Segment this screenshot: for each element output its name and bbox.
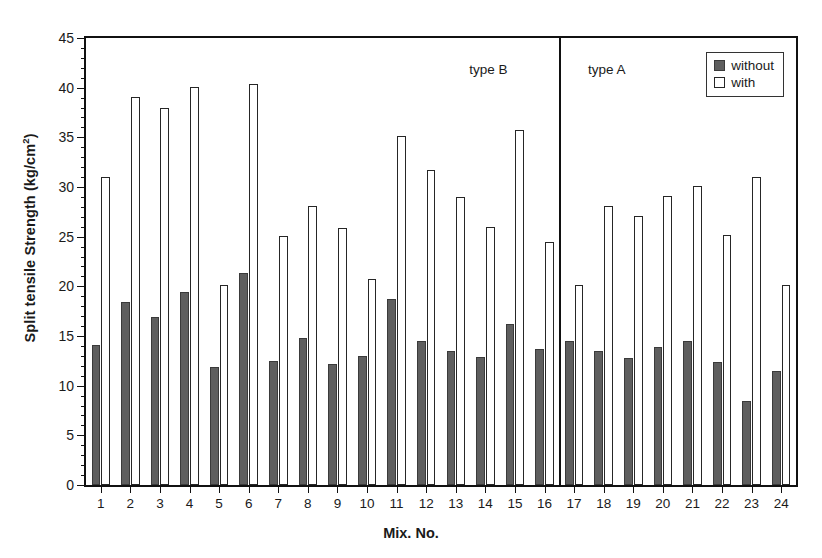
y-axis-minor-tick xyxy=(81,227,86,228)
y-axis-minor-tick xyxy=(81,78,86,79)
x-axis-tick-label: 11 xyxy=(390,497,404,511)
y-axis-major-tick xyxy=(77,237,86,238)
y-axis-minor-tick xyxy=(81,257,86,258)
bar-with-mix-14 xyxy=(486,227,495,485)
y-axis-title: Split tensile Strength (kg/cm2) xyxy=(20,88,38,388)
x-axis-tick xyxy=(781,485,782,493)
legend-item-with: with xyxy=(714,74,774,91)
y-axis-major-tick xyxy=(77,38,86,39)
y-axis-minor-tick xyxy=(81,425,86,426)
bar-without-mix-12 xyxy=(417,341,426,485)
y-axis-minor-tick xyxy=(81,108,86,109)
bar-with-mix-16 xyxy=(545,242,554,485)
x-axis-tick xyxy=(308,485,309,493)
x-axis-tick-label: 13 xyxy=(448,497,463,511)
legend: without with xyxy=(706,52,784,97)
bar-with-mix-18 xyxy=(604,206,613,485)
y-axis-tick-label: 35 xyxy=(58,130,74,144)
legend-label-with: with xyxy=(731,76,755,90)
y-axis-title-main: Split tensile Strength (kg/cm xyxy=(22,144,38,343)
bar-with-mix-20 xyxy=(663,196,672,485)
plot-area: 051015202530354045 123456789101112131415… xyxy=(84,36,798,487)
y-axis-minor-tick xyxy=(81,117,86,118)
x-axis-tick xyxy=(160,485,161,493)
bar-without-mix-23 xyxy=(742,401,751,485)
x-axis-tick xyxy=(367,485,368,493)
bar-without-mix-8 xyxy=(299,338,308,485)
bar-without-mix-14 xyxy=(476,357,485,485)
x-axis-tick-label: 6 xyxy=(245,497,253,511)
y-axis-tick-label: 25 xyxy=(58,230,74,244)
y-axis-minor-tick xyxy=(81,207,86,208)
x-axis-tick-label: 1 xyxy=(97,497,105,511)
bar-with-mix-23 xyxy=(752,177,761,485)
type-a-label: type A xyxy=(588,62,626,77)
x-axis-tick xyxy=(101,485,102,493)
bar-with-mix-7 xyxy=(279,236,288,485)
x-axis-tick xyxy=(604,485,605,493)
y-axis-minor-tick xyxy=(81,376,86,377)
y-axis-tick-label: 5 xyxy=(66,428,74,442)
y-axis-tick-label: 40 xyxy=(58,81,74,95)
bar-without-mix-1 xyxy=(92,345,101,485)
bar-without-mix-9 xyxy=(328,364,337,485)
y-axis-minor-tick xyxy=(81,406,86,407)
y-axis-minor-tick xyxy=(81,415,86,416)
y-axis-minor-tick xyxy=(81,475,86,476)
bar-without-mix-22 xyxy=(713,362,722,485)
y-axis-major-tick xyxy=(77,435,86,436)
y-axis-minor-tick xyxy=(81,177,86,178)
y-axis-major-tick xyxy=(77,286,86,287)
y-axis-minor-tick xyxy=(81,197,86,198)
bar-without-mix-13 xyxy=(447,351,456,485)
y-axis-major-tick xyxy=(77,386,86,387)
bar-with-mix-22 xyxy=(723,235,732,485)
y-axis-title-superscript: 2 xyxy=(20,138,31,143)
y-axis-minor-tick xyxy=(81,217,86,218)
y-axis-minor-tick xyxy=(81,98,86,99)
bar-with-mix-21 xyxy=(693,186,702,485)
x-axis-tick xyxy=(278,485,279,493)
x-axis-tick-label: 12 xyxy=(419,497,434,511)
x-axis-tick-label: 4 xyxy=(186,497,194,511)
bar-with-mix-3 xyxy=(160,108,169,485)
bar-with-mix-15 xyxy=(515,130,524,485)
split-tensile-strength-chart: Split tensile Strength (kg/cm2) 05101520… xyxy=(0,0,822,558)
x-axis-tick xyxy=(397,485,398,493)
x-axis-tick xyxy=(515,485,516,493)
y-axis-minor-tick xyxy=(81,58,86,59)
y-axis-minor-tick xyxy=(81,147,86,148)
y-axis-minor-tick xyxy=(81,127,86,128)
bar-without-mix-4 xyxy=(180,292,189,485)
x-axis-tick xyxy=(545,485,546,493)
x-axis-tick-label: 14 xyxy=(478,497,493,511)
y-axis-minor-tick xyxy=(81,326,86,327)
x-axis-tick-label: 15 xyxy=(507,497,522,511)
bar-without-mix-11 xyxy=(387,299,396,485)
y-axis-minor-tick xyxy=(81,346,86,347)
bar-without-mix-10 xyxy=(358,356,367,485)
y-axis-minor-tick xyxy=(81,276,86,277)
x-axis-tick-label: 9 xyxy=(334,497,342,511)
bar-with-mix-17 xyxy=(575,285,584,485)
y-axis-minor-tick xyxy=(81,396,86,397)
bar-with-mix-24 xyxy=(782,285,791,485)
bar-with-mix-19 xyxy=(634,216,643,485)
x-axis-title: Mix. No. xyxy=(0,525,822,541)
type-b-label: type B xyxy=(469,62,507,77)
x-axis-tick-label: 10 xyxy=(360,497,375,511)
y-axis-major-tick xyxy=(77,336,86,337)
x-axis-tick xyxy=(722,485,723,493)
x-axis-tick xyxy=(190,485,191,493)
bar-with-mix-8 xyxy=(308,206,317,485)
bar-with-mix-2 xyxy=(131,97,140,485)
x-axis-tick xyxy=(456,485,457,493)
y-axis-tick-label: 10 xyxy=(58,379,74,393)
bar-without-mix-15 xyxy=(506,324,515,485)
y-axis-minor-tick xyxy=(81,316,86,317)
x-axis-tick xyxy=(426,485,427,493)
bar-without-mix-24 xyxy=(772,371,781,485)
bar-with-mix-4 xyxy=(190,87,199,485)
bar-without-mix-16 xyxy=(535,349,544,485)
y-axis-minor-tick xyxy=(81,296,86,297)
